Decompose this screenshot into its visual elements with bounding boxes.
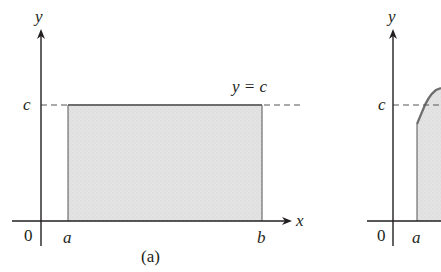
- c-tick-label: c: [23, 95, 31, 114]
- origin-label: 0: [24, 226, 33, 245]
- a-tick-label: a: [63, 228, 72, 247]
- panel-a: y x c 0 a b y = c (a): [12, 7, 304, 266]
- shaded-region-a: [68, 105, 262, 221]
- a-tick-label-b: a: [412, 228, 421, 247]
- y-axis-label-b: y: [386, 7, 396, 26]
- panel-caption: (a): [141, 247, 160, 266]
- shaded-region-b: [417, 88, 441, 221]
- y-axis-label: y: [33, 7, 43, 26]
- panel-b: y c 0 a: [367, 7, 441, 247]
- figure: y x c 0 a b y = c (a) y c 0 a: [0, 0, 441, 272]
- b-tick-label: b: [257, 228, 266, 247]
- origin-label-b: 0: [377, 226, 386, 245]
- curve-label: y = c: [230, 77, 268, 96]
- x-axis-label: x: [295, 211, 304, 230]
- c-tick-label-b: c: [378, 95, 386, 114]
